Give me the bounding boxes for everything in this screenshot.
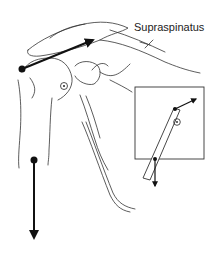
inset-insertion-point xyxy=(173,107,177,111)
shoulder-diagram xyxy=(0,0,212,255)
supraspinatus-label: Supraspinatus xyxy=(134,21,204,33)
inset-center-of-mass xyxy=(153,157,157,161)
humerus-outline xyxy=(18,58,72,168)
supraspinatus-force-vector xyxy=(22,40,93,69)
scapula-outline xyxy=(75,62,135,213)
arm-center-of-mass xyxy=(31,157,38,164)
muscle-insertion-point xyxy=(19,66,26,73)
inset-model xyxy=(135,87,204,186)
